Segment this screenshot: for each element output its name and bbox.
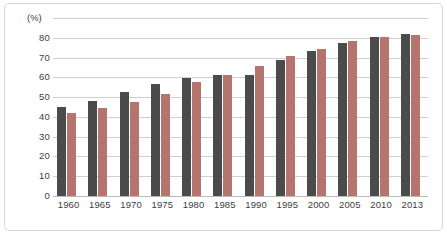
x-axis-tick-label: 1965 [89,200,111,210]
y-axis-tick-label: 20 [12,152,50,162]
y-axis-tick-label: 40 [12,112,50,122]
bar-red [130,102,139,196]
x-axis-tick-label: 1995 [277,200,299,210]
bar-red [255,66,264,196]
x-axis-tick-label: 2013 [402,200,424,210]
gridline [53,196,428,197]
bar-dark [276,60,285,196]
bar-group [84,18,115,196]
bar-red [317,49,326,196]
bar-dark [370,37,379,196]
bar-dark [401,34,410,196]
y-axis-tick-label: 80 [12,33,50,43]
bar-red [161,94,170,196]
x-axis-tick-label: 2010 [370,200,392,210]
bar-group [366,18,397,196]
y-axis-tick-labels: 01020304050607080 [12,18,50,196]
y-axis-tick-label: 30 [12,132,50,142]
bar-dark [151,84,160,196]
bar-group [397,18,428,196]
y-axis-tick-label: 50 [12,92,50,102]
bar-group [53,18,84,196]
bar-red [67,113,76,196]
bar-dark [182,78,191,196]
y-axis-tick-label: 0 [12,191,50,201]
bar-red [348,41,357,196]
bar-group [303,18,334,196]
bar-red [98,108,107,196]
x-axis-tick-label: 1970 [120,200,142,210]
bar-red [380,37,389,196]
bar-dark [245,75,254,196]
x-axis-tick-label: 1960 [58,200,80,210]
bar-group [241,18,272,196]
bar-dark [307,51,316,196]
y-axis-tick-label: 60 [12,73,50,83]
bar-dark [213,75,222,196]
chart-screenshot: (%) 01020304050607080 196019651970197519… [0,0,447,235]
bar-group [116,18,147,196]
bar-dark [57,107,66,196]
bar-red [223,75,232,196]
bar-dark [120,92,129,196]
x-axis-tick-label: 2000 [308,200,330,210]
x-axis-tick-label: 2005 [339,200,361,210]
bar-group [147,18,178,196]
bar-group [334,18,365,196]
bar-dark [88,101,97,196]
bar-group [209,18,240,196]
bar-red [411,35,420,196]
plot-area [53,18,428,196]
x-axis-tick-labels: 1960196519701975198019851990199520002005… [53,200,428,220]
bar-group [178,18,209,196]
y-axis-tick-label: 10 [12,171,50,181]
bar-series-container [53,18,428,196]
x-axis-tick-label: 1985 [214,200,236,210]
bar-group [272,18,303,196]
x-axis-tick-label: 1980 [183,200,205,210]
x-axis-tick-label: 1975 [152,200,174,210]
bar-dark [338,43,347,196]
bar-red [192,82,201,196]
y-axis-tick-label: 70 [12,53,50,63]
x-axis-tick-label: 1990 [245,200,267,210]
bar-red [286,56,295,196]
